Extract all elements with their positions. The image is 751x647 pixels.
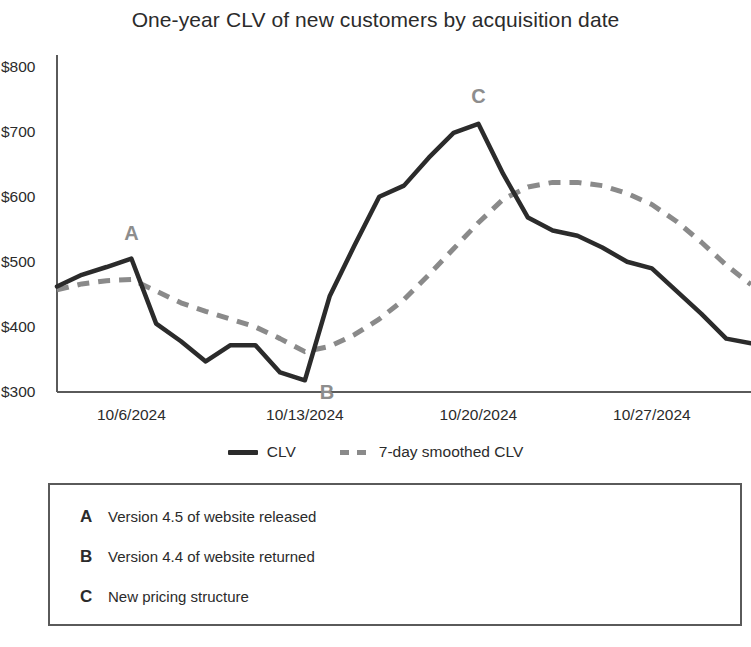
annotation-note-row: BVersion 4.4 of website returned <box>80 547 728 567</box>
annotation-marker-c: C <box>471 84 485 107</box>
annotations-legend-box: AVersion 4.5 of website releasedBVersion… <box>48 483 742 626</box>
legend-item-clv: CLV <box>228 443 296 461</box>
annotation-note-text: Version 4.5 of website released <box>108 508 316 525</box>
chart-title: One-year CLV of new customers by acquisi… <box>0 8 751 32</box>
legend-item-smoothed-clv: 7-day smoothed CLV <box>340 443 523 461</box>
annotation-note-key: B <box>80 547 94 567</box>
legend-swatch-solid-icon <box>228 450 258 455</box>
clv-chart: One-year CLV of new customers by acquisi… <box>0 0 751 647</box>
annotation-note-row: AVersion 4.5 of website released <box>80 507 728 527</box>
annotation-note-key: C <box>80 587 94 607</box>
x-axis-tick-label: 10/27/2024 <box>613 406 691 424</box>
annotation-marker-b: B <box>320 381 334 404</box>
axis-lines <box>57 55 751 392</box>
annotation-note-row: CNew pricing structure <box>80 587 728 607</box>
series-line-clv <box>57 124 751 380</box>
x-axis-labels: 10/6/202410/13/202410/20/202410/27/2024 <box>0 404 751 434</box>
annotations-list: AVersion 4.5 of website releasedBVersion… <box>80 507 728 607</box>
x-axis-tick-label: 10/6/2024 <box>97 406 166 424</box>
legend-swatch-dashed-icon <box>340 450 370 455</box>
legend-label-clv: CLV <box>267 443 296 461</box>
chart-legend: CLV 7-day smoothed CLV <box>0 438 751 466</box>
legend-label-smoothed-clv: 7-day smoothed CLV <box>379 443 523 461</box>
plot-svg <box>0 45 751 410</box>
annotation-note-text: New pricing structure <box>108 588 249 605</box>
plot-area: ABC <box>0 45 751 410</box>
annotation-note-key: A <box>80 507 94 527</box>
annotation-marker-a: A <box>124 221 138 244</box>
x-axis-tick-label: 10/13/2024 <box>266 406 344 424</box>
x-axis-tick-label: 10/20/2024 <box>440 406 518 424</box>
annotation-note-text: Version 4.4 of website returned <box>108 548 315 565</box>
